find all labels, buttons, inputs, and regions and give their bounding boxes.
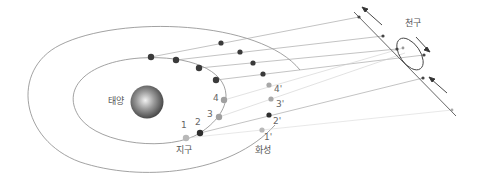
mars-label: 화성 — [255, 146, 271, 155]
earth-position-1: 1 — [181, 121, 187, 130]
earth-position-4: 4 — [213, 94, 219, 103]
retrograde-motion-diagram: 태양 지구 화성 천구 1 2 3 4 1' 2' 3' 4' — [0, 0, 479, 187]
mars-position-3: 3' — [276, 100, 284, 109]
earth-position-3: 3 — [207, 110, 213, 119]
mars-position-1: 1' — [264, 133, 272, 142]
celestial-sphere-label: 천구 — [405, 19, 421, 28]
sun — [131, 86, 164, 119]
sun-label: 태양 — [108, 97, 124, 106]
earth-position-2: 2 — [195, 118, 201, 127]
mars-position-4: 4' — [274, 85, 282, 94]
earth-label: 지구 — [176, 146, 192, 155]
mars-position-2: 2' — [273, 117, 281, 126]
diagram-canvas — [0, 0, 479, 187]
